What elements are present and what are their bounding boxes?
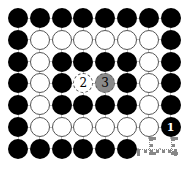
- black-cell[interactable]: [139, 8, 159, 28]
- black-cell[interactable]: [73, 52, 93, 72]
- black-cell[interactable]: [52, 8, 72, 28]
- black-cell[interactable]: [8, 8, 28, 28]
- black-cell[interactable]: [161, 8, 181, 28]
- path-segment-horizontal: [137, 149, 177, 153]
- numbered-cell-2[interactable]: 2: [73, 73, 93, 93]
- black-cell[interactable]: [95, 52, 115, 72]
- white-cell[interactable]: [30, 73, 50, 93]
- white-cell[interactable]: [73, 117, 93, 137]
- numbered-cell-3[interactable]: 3: [95, 73, 115, 93]
- black-cell[interactable]: [95, 139, 115, 159]
- white-cell[interactable]: [139, 95, 159, 115]
- white-cell[interactable]: [95, 117, 115, 137]
- white-cell[interactable]: [30, 95, 50, 115]
- white-cell[interactable]: [139, 30, 159, 50]
- black-cell[interactable]: [117, 8, 137, 28]
- black-cell[interactable]: [95, 8, 115, 28]
- black-cell[interactable]: [8, 117, 28, 137]
- white-cell[interactable]: [52, 117, 72, 137]
- white-cell[interactable]: [30, 52, 50, 72]
- grid-tick: [159, 148, 161, 149]
- black-cell[interactable]: [117, 73, 137, 93]
- black-cell[interactable]: [117, 139, 137, 159]
- grid-tick: [170, 137, 171, 139]
- black-cell[interactable]: [30, 8, 50, 28]
- black-cell[interactable]: [30, 139, 50, 159]
- black-cell[interactable]: [8, 30, 28, 50]
- black-cell[interactable]: [161, 95, 181, 115]
- black-cell[interactable]: [8, 52, 28, 72]
- white-cell[interactable]: [73, 30, 93, 50]
- black-cell[interactable]: [52, 52, 72, 72]
- black-cell[interactable]: [161, 73, 181, 93]
- white-cell[interactable]: [95, 30, 115, 50]
- black-cell[interactable]: [52, 73, 72, 93]
- black-cell[interactable]: [73, 139, 93, 159]
- white-cell[interactable]: [52, 30, 72, 50]
- white-cell[interactable]: [139, 52, 159, 72]
- black-cell[interactable]: [52, 139, 72, 159]
- black-cell[interactable]: [117, 95, 137, 115]
- black-cell[interactable]: [117, 52, 137, 72]
- black-cell[interactable]: [161, 30, 181, 50]
- black-cell[interactable]: [8, 73, 28, 93]
- white-cell[interactable]: [30, 30, 50, 50]
- black-cell[interactable]: [161, 52, 181, 72]
- black-cell[interactable]: [95, 95, 115, 115]
- black-cell[interactable]: [52, 95, 72, 115]
- white-cell[interactable]: [117, 30, 137, 50]
- game-board: 231: [0, 0, 190, 173]
- white-cell[interactable]: [30, 117, 50, 137]
- grid-tick: [137, 148, 139, 149]
- black-cell[interactable]: [73, 95, 93, 115]
- white-cell[interactable]: [117, 117, 137, 137]
- black-cell[interactable]: [8, 95, 28, 115]
- numbered-cell-1[interactable]: 1: [161, 117, 181, 137]
- white-cell[interactable]: [139, 117, 159, 137]
- black-cell[interactable]: [73, 8, 93, 28]
- black-cell[interactable]: [8, 139, 28, 159]
- white-cell[interactable]: [139, 73, 159, 93]
- grid-tick: [148, 137, 149, 139]
